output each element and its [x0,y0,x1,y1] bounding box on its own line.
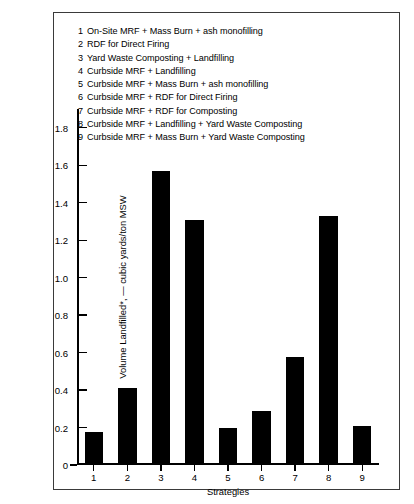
x-axis-tick-label: 6 [259,472,264,483]
x-axis-tick-label: 5 [225,472,230,483]
y-axis-tick-label: 0.6 [55,347,68,358]
x-axis-tick [294,465,295,471]
y-axis-tick-label: 1.0 [55,272,68,283]
y-axis-tick-label: 0.2 [55,422,68,433]
y-axis-tick-label: 0.8 [55,310,68,321]
x-axis-tick-label: 4 [192,472,197,483]
bar-3 [152,171,171,463]
bar-5 [219,428,238,464]
y-axis-tick [79,165,87,166]
x-axis-title: Strategies [207,486,249,497]
x-axis-tick-label: 8 [326,472,331,483]
y-axis-tick [79,127,87,128]
y-axis-tick [79,389,87,390]
y-axis-line [77,109,79,465]
x-axis-tick [328,465,329,471]
y-axis-title: Volume Landfilled*, — cubic yards/ton MS… [117,195,128,378]
bar-7 [286,357,305,464]
y-axis-tick-label: 1.2 [55,235,68,246]
x-axis-tick [227,465,228,471]
x-axis-tick [93,465,94,471]
plot-area: Volume Landfilled*, — cubic yards/ton MS… [54,13,401,491]
x-axis-tick [362,465,363,471]
y-axis-tick-label: 0.4 [55,385,68,396]
y-axis-tick-label: 0 [63,460,68,471]
x-axis-tick [127,465,128,471]
y-axis-tick [79,314,87,315]
bar-9 [353,426,372,463]
bar-1 [85,432,104,464]
y-axis-tick [70,464,77,465]
x-axis-tick-label: 7 [292,472,297,483]
x-axis-tick-label: 2 [125,472,130,483]
x-axis-tick [261,465,262,471]
y-axis-tick-label: 1.4 [55,197,68,208]
x-axis-tick [194,465,195,471]
x-axis-tick-label: 1 [91,472,96,483]
y-axis-tick-label: 1.6 [55,160,68,171]
bar-6 [252,411,271,463]
y-axis-tick [79,277,87,278]
y-axis-tick [79,352,87,353]
y-axis-tick-label: 1.8 [55,122,68,133]
bar-2 [118,388,137,463]
bar-4 [185,220,204,464]
x-axis-tick [160,465,161,471]
x-axis-tick-label: 9 [360,472,365,483]
figure-frame: 1On-Site MRF + Mass Burn + ash monofilli… [53,12,400,490]
y-axis-tick [79,240,87,241]
y-axis-tick [79,202,87,203]
y-axis-tick [79,427,87,428]
axes: Volume Landfilled*, — cubic yards/ton MS… [77,109,379,465]
bar-8 [319,216,338,463]
x-axis-tick-label: 3 [158,472,163,483]
